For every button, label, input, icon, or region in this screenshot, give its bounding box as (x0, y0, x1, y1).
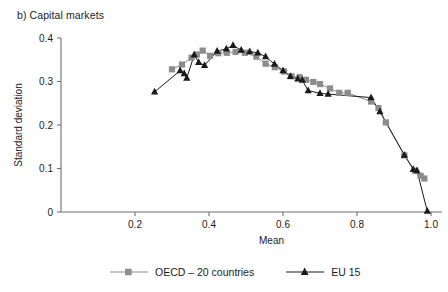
legend-item-oecd[interactable]: OECD – 20 countries (110, 266, 254, 278)
series-line (172, 51, 424, 179)
data-point-marker-square (310, 79, 316, 85)
legend-marker-triangle (301, 268, 309, 275)
axes-group: 00.10.20.30.40.20.40.60.81.0 (39, 33, 442, 231)
chart-canvas: 00.10.20.30.40.20.40.60.81.0 MeanStandar… (0, 0, 448, 292)
y-tick-label: 0.1 (39, 163, 53, 174)
x-tick-label: 0.6 (276, 219, 290, 230)
x-tick-label: 0.8 (350, 219, 364, 230)
data-point-marker-triangle (271, 60, 278, 67)
data-point-marker-square (200, 48, 206, 54)
data-point-marker-triangle (367, 94, 374, 101)
data-point-marker-triangle (305, 87, 312, 94)
legend-item-eu15[interactable]: EU 15 (286, 266, 360, 278)
legend-marker-square (125, 269, 132, 276)
x-tick-label: 0.2 (128, 219, 142, 230)
series-eu15 (155, 45, 428, 211)
data-point-marker-square (345, 90, 351, 96)
data-point-marker-triangle (229, 41, 236, 48)
data-point-marker-square (317, 81, 323, 87)
y-tick-label: 0 (47, 207, 53, 218)
series-line (155, 45, 428, 211)
legend-label: OECD – 20 countries (155, 266, 254, 278)
axis-titles-group: MeanStandard deviation (13, 83, 284, 246)
data-point-marker-triangle (223, 45, 230, 52)
data-point-marker-square (233, 49, 239, 55)
data-point-marker-square (169, 66, 175, 72)
data-point-marker-square (179, 61, 185, 67)
x-tick-label: 0.4 (202, 219, 216, 230)
y-axis-title: Standard deviation (13, 83, 24, 166)
data-point-marker-square (263, 61, 269, 67)
data-point-marker-square (383, 119, 389, 125)
data-point-marker-triangle (424, 207, 431, 214)
figure-container: b) Capital markets 00.10.20.30.40.20.40.… (0, 0, 448, 292)
data-point-marker-square (336, 90, 342, 96)
y-tick-label: 0.3 (39, 76, 53, 87)
y-tick-label: 0.2 (39, 120, 53, 131)
series-oecd (172, 51, 424, 179)
data-point-marker-square (207, 53, 213, 59)
legend-group: OECD – 20 countriesEU 15 (110, 266, 360, 278)
data-point-marker-square (421, 175, 427, 181)
y-tick-label: 0.4 (39, 33, 53, 44)
data-point-marker-triangle (151, 88, 158, 95)
legend-label: EU 15 (331, 266, 360, 278)
data-point-marker-triangle (195, 58, 202, 65)
x-axis-title: Mean (259, 235, 284, 246)
series-group (151, 41, 431, 213)
x-tick-label: 1.0 (424, 219, 438, 230)
